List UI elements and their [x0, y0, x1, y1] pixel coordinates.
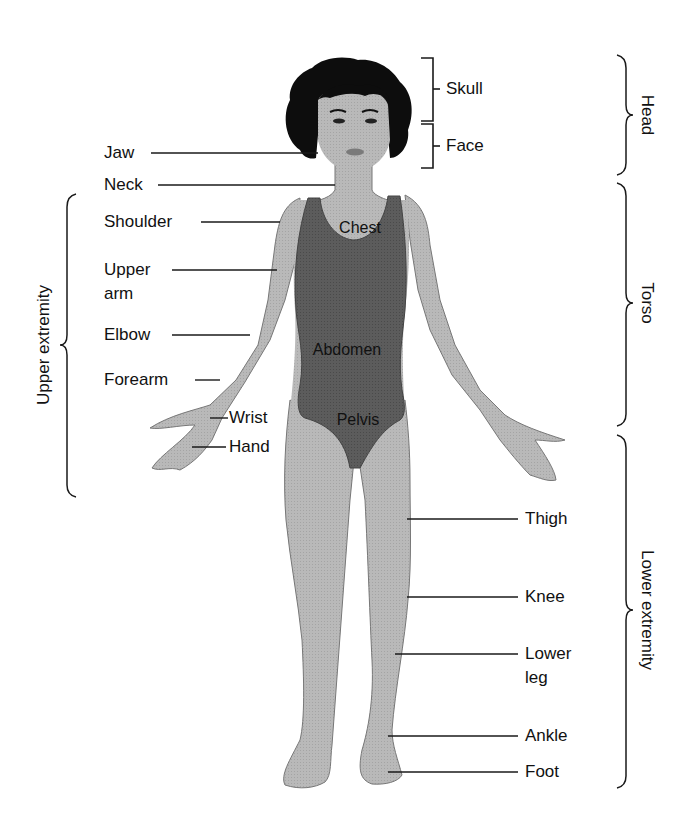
label-elbow: Elbow [104, 325, 150, 345]
legs [284, 400, 411, 788]
region-head: Head [637, 95, 657, 136]
label-skull: Skull [446, 79, 483, 99]
label-wrist: Wrist [229, 408, 267, 428]
label-jaw: Jaw [104, 143, 134, 163]
label-neck: Neck [104, 175, 143, 195]
label-face: Face [446, 136, 484, 156]
left-arm [150, 198, 300, 470]
label-ankle: Ankle [525, 726, 568, 746]
label-knee: Knee [525, 587, 565, 607]
region-lower-extremity: Lower extremity [637, 550, 657, 670]
label-upper-arm-line2: arm [104, 284, 133, 304]
label-chest: Chest [339, 219, 381, 237]
head [286, 58, 412, 172]
label-foot: Foot [525, 762, 559, 782]
region-torso: Torso [637, 282, 657, 324]
label-lower-leg-line2: leg [525, 668, 548, 688]
anatomy-diagram: Jaw Neck Shoulder Upper arm Elbow Forear… [0, 0, 697, 821]
head-brackets [421, 58, 440, 168]
right-arm [405, 195, 565, 481]
label-pelvis: Pelvis [337, 411, 380, 429]
label-abdomen: Abdomen [313, 341, 382, 359]
label-thigh: Thigh [525, 509, 568, 529]
label-forearm: Forearm [104, 370, 168, 390]
region-upper-extremity: Upper extremity [34, 285, 54, 405]
label-shoulder: Shoulder [104, 212, 172, 232]
label-upper-arm-line1: Upper [104, 260, 150, 280]
label-hand: Hand [229, 437, 270, 457]
label-lower-leg-line1: Lower [525, 644, 571, 664]
